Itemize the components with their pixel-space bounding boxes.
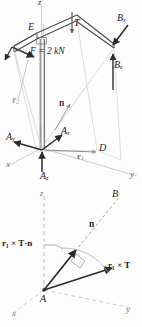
point-label-D: D — [99, 143, 106, 153]
vector-r2-sub: 2 — [16, 99, 19, 105]
axis-label-x-lower: x — [12, 309, 16, 318]
reaction-label-Bx: Bx — [117, 13, 126, 24]
reaction-Ax-sub: x — [67, 129, 70, 136]
diagram-canvas — [0, 0, 142, 327]
axis-label-z-lower: z — [40, 190, 43, 198]
reaction-label-Ay: Ay — [6, 132, 15, 143]
moment-vector-label: r₁ × T — [108, 261, 130, 270]
figure-root: z E T F = 2 kN Bx Bz r2 n Ay Ax Az r1 D … — [0, 0, 142, 327]
axis-label-x-upper: x — [6, 160, 10, 169]
reaction-arrows-A — [14, 135, 62, 172]
moment-vector-label-text: r₁ × T — [108, 260, 130, 270]
vector-label-n-upper: n — [59, 99, 64, 109]
reaction-Bx-sub: x — [123, 16, 126, 23]
reaction-Ay-sub: y — [12, 135, 15, 142]
axis-label-y-lower: y — [126, 305, 130, 314]
projection-label: r₁ × T·n — [2, 239, 32, 248]
load-label-T: T — [74, 18, 80, 28]
projection-label-text: r₁ × T·n — [2, 238, 32, 248]
vector-label-r1-upper: r1 — [77, 152, 84, 162]
vector-label-n-lower: n — [89, 220, 94, 230]
vector-r1-sub: 1 — [81, 155, 84, 161]
point-label-A-lower: A — [40, 294, 46, 304]
reaction-label-Az: Az — [40, 171, 49, 182]
reaction-Bz-sub: z — [120, 63, 122, 70]
reaction-label-Bz: Bz — [114, 60, 123, 71]
axis-label-z-top: z — [38, 0, 41, 7]
force-magnitude-label: F = 2 kN — [30, 47, 65, 57]
axis-label-y-upper: y — [130, 170, 134, 179]
lower-vectors — [42, 196, 120, 292]
reaction-label-Ax: Ax — [61, 126, 70, 137]
point-label-E: E — [28, 22, 34, 32]
reaction-Az-sub: z — [46, 174, 48, 181]
point-label-B-lower: B — [112, 189, 118, 199]
vector-label-r2: r2 — [12, 96, 19, 106]
